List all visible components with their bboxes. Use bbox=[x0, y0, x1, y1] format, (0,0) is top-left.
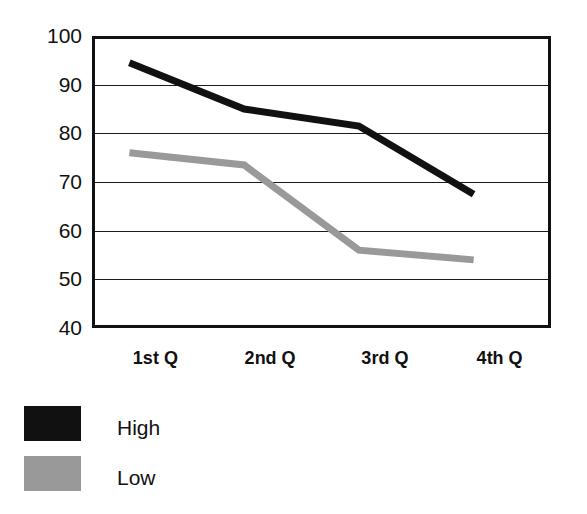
y-tick-label: 40 bbox=[59, 316, 82, 340]
x-tick-label: 3rd Q bbox=[361, 348, 408, 369]
legend-item-high[interactable]: High bbox=[24, 404, 324, 454]
legend-swatch-high bbox=[24, 406, 81, 441]
legend-item-low[interactable]: Low bbox=[24, 454, 324, 504]
y-tick-label: 60 bbox=[59, 219, 82, 243]
line-chart-figure: 405060708090100 1st Q2nd Q3rd Q4th Q Hig… bbox=[0, 0, 587, 514]
x-tick-label: 4th Q bbox=[477, 348, 523, 369]
plot-area bbox=[92, 36, 551, 328]
series-layer bbox=[95, 39, 554, 331]
legend-swatch-low bbox=[24, 456, 81, 491]
x-axis: 1st Q2nd Q3rd Q4th Q bbox=[92, 348, 551, 378]
series-line-high bbox=[129, 63, 473, 194]
legend-label: Low bbox=[117, 466, 156, 490]
series-line-low bbox=[129, 153, 473, 260]
x-tick-label: 2nd Q bbox=[245, 348, 296, 369]
chart-legend: HighLow bbox=[24, 404, 324, 504]
legend-label: High bbox=[117, 416, 160, 440]
y-tick-label: 50 bbox=[59, 267, 82, 291]
y-tick-label: 70 bbox=[59, 170, 82, 194]
y-tick-label: 90 bbox=[59, 73, 82, 97]
y-tick-label: 100 bbox=[47, 24, 82, 48]
x-tick-label: 1st Q bbox=[133, 348, 178, 369]
y-tick-label: 80 bbox=[59, 121, 82, 145]
